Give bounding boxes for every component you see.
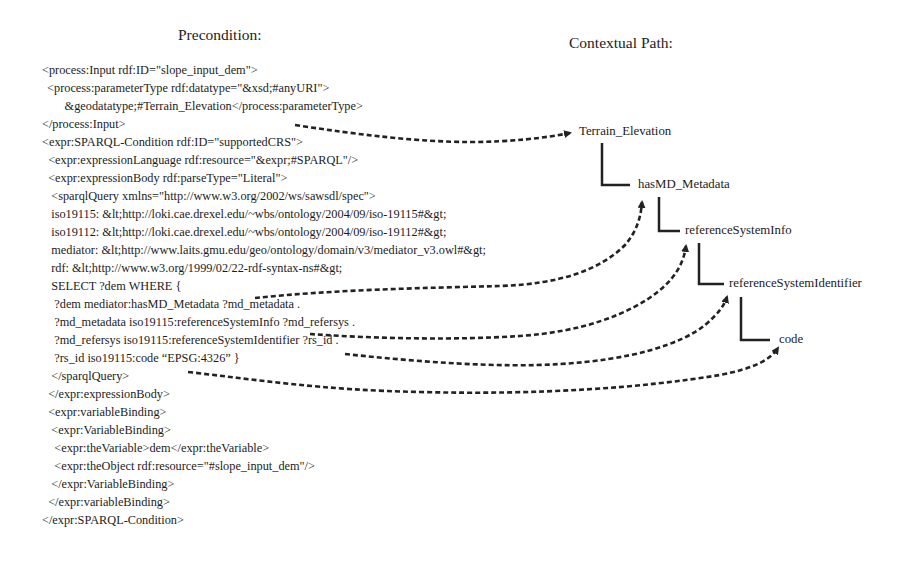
elbow-refsysinfo-to-refsysid — [699, 243, 724, 284]
arrow-hasmd-metadata — [255, 202, 642, 298]
arrow-code — [188, 348, 778, 393]
elbow-refsysid-to-code — [741, 297, 770, 340]
diagram-connectors — [0, 0, 921, 568]
elbow-terrain-to-hasmd — [602, 143, 630, 185]
dashed-mapping-arrows — [188, 125, 778, 393]
arrow-terrain-elevation — [295, 125, 570, 142]
arrow-reference-system-info — [310, 246, 686, 338]
arrow-reference-system-identifier — [345, 297, 727, 365]
elbow-hasmd-to-refsysinfo — [659, 197, 680, 231]
